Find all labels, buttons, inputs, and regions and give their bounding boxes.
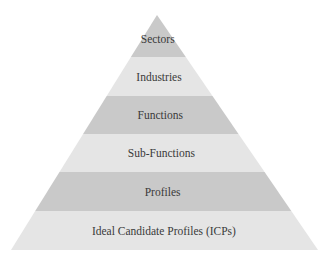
level-label-industries: Industries	[136, 71, 182, 83]
level-label-functions: Functions	[138, 109, 184, 121]
level-label-sub-functions: Sub-Functions	[128, 147, 196, 159]
pyramid-bands	[11, 15, 318, 250]
level-label-sectors: Sectors	[141, 33, 175, 45]
hierarchy-pyramid: Sectors Industries Functions Sub-Functio…	[0, 0, 330, 266]
level-label-icps: Ideal Candidate Profiles (ICPs)	[92, 225, 236, 238]
level-label-profiles: Profiles	[145, 186, 181, 198]
